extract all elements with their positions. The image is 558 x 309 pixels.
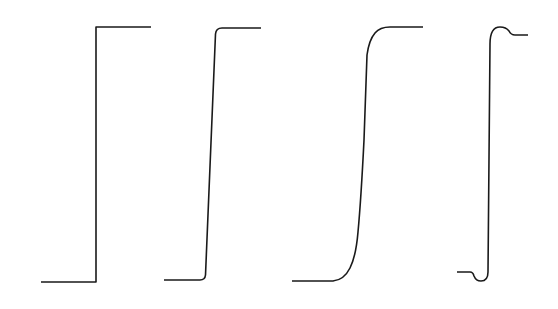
- diagram-canvas: Ideal step (zero rise time) Fast edge wi…: [0, 0, 558, 309]
- waveform-fast-rise: [164, 28, 261, 280]
- waveform-slow-rise: [292, 27, 423, 281]
- waveform-ideal-step: [41, 27, 151, 282]
- waveforms-figure: [0, 0, 558, 309]
- waveform-ringing: [457, 27, 528, 281]
